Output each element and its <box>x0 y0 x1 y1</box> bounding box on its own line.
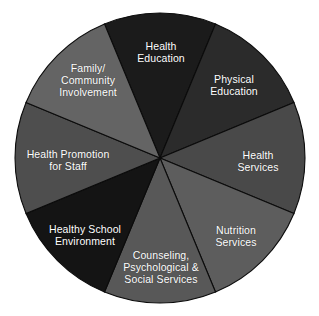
pie-chart-canvas <box>0 0 319 316</box>
pie-chart-figure: HealthEducationPhysicalEducationHealthSe… <box>0 0 319 316</box>
pie-slice-group <box>15 13 305 303</box>
